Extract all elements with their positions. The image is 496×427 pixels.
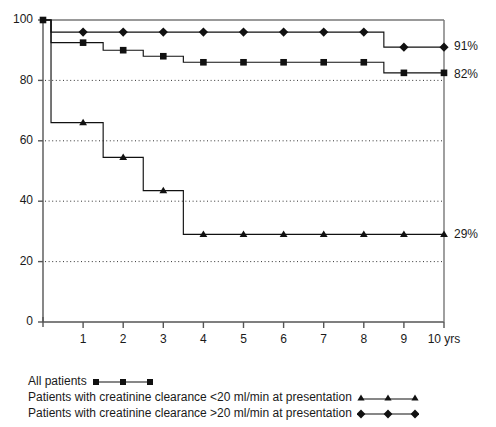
x-tick-label-9: 9 [401, 332, 408, 346]
data-point-square-1 [80, 39, 87, 46]
legend-label-all-patients: All patients [28, 374, 87, 389]
legend-item-clearance-under-20: Patients with creatinine clearance <20 m… [28, 390, 478, 405]
series-triangle [43, 20, 448, 237]
data-point-square-6 [280, 59, 287, 66]
x-tick-label-10: 10 yrs [428, 332, 461, 346]
x-tick-label-8: 8 [360, 332, 367, 346]
x-tick-label-3: 3 [160, 332, 167, 346]
endpoint-label-triangle: 29% [454, 227, 478, 241]
data-point-square-7 [320, 59, 327, 66]
data-point-triangle-5 [280, 230, 288, 237]
data-point-diamond-4 [239, 27, 248, 36]
data-point-diamond-7 [359, 27, 368, 36]
data-point-square-8 [361, 59, 368, 66]
data-point-triangle-0 [79, 119, 87, 126]
series-line-triangle [43, 20, 444, 234]
data-point-triangle-7 [360, 230, 368, 237]
data-point-diamond-0 [79, 27, 88, 36]
axes-group [38, 20, 444, 328]
data-point-diamond-5 [279, 27, 288, 36]
data-point-square-2 [120, 47, 127, 54]
chart-canvas: 02040608010012345678910 yrs 82%29%91% [0, 0, 496, 427]
data-point-triangle-3 [200, 230, 208, 237]
x-tick-label-5: 5 [240, 332, 247, 346]
legend-key-triangle-icon [357, 391, 419, 405]
data-point-diamond-3 [199, 27, 208, 36]
data-point-diamond-1 [119, 27, 128, 36]
data-point-square-9 [401, 70, 408, 77]
legend-key-square-icon [92, 375, 154, 389]
data-point-diamond-2 [159, 27, 168, 36]
chart-legend: All patients Patients with creatinine cl… [28, 374, 478, 420]
y-tick-label-20: 20 [20, 254, 34, 268]
y-tick-label-0: 0 [26, 314, 33, 328]
data-point-triangle-9 [440, 230, 448, 237]
x-tick-label-2: 2 [120, 332, 127, 346]
survival-chart-figure: 02040608010012345678910 yrs 82%29%91% Al… [0, 0, 496, 427]
data-point-triangle-6 [320, 230, 328, 237]
data-point-diamond-8 [399, 43, 408, 52]
legend-key-diamond-icon [357, 407, 419, 421]
x-tick-label-6: 6 [280, 332, 287, 346]
x-tick-label-4: 4 [200, 332, 207, 346]
legend-label-clearance-over-20: Patients with creatinine clearance >20 m… [28, 406, 352, 421]
data-series-group [40, 17, 449, 237]
data-point-triangle-1 [119, 153, 127, 160]
legend-item-clearance-over-20: Patients with creatinine clearance >20 m… [28, 406, 478, 421]
x-tick-label-1: 1 [80, 332, 87, 346]
data-point-triangle-2 [159, 187, 167, 194]
data-point-square-4 [200, 59, 207, 66]
endpoint-label-square: 82% [454, 67, 478, 81]
series-diamond [43, 20, 449, 52]
endpoint-label-diamond: 91% [454, 39, 478, 53]
data-point-diamond-9 [439, 43, 448, 52]
y-tick-label-80: 80 [20, 73, 34, 87]
data-point-triangle-8 [400, 230, 408, 237]
legend-label-clearance-under-20: Patients with creatinine clearance <20 m… [28, 390, 352, 405]
y-tick-label-40: 40 [20, 193, 34, 207]
legend-item-all-patients: All patients [28, 374, 478, 389]
x-tick-label-7: 7 [320, 332, 327, 346]
endpoint-labels-group: 82%29%91% [454, 39, 478, 240]
y-tick-label-100: 100 [13, 12, 33, 26]
data-point-diamond-6 [319, 27, 328, 36]
data-point-square-10 [441, 70, 448, 77]
data-point-triangle-4 [240, 230, 248, 237]
y-tick-label-60: 60 [20, 133, 34, 147]
series-square [40, 17, 448, 76]
data-point-square-3 [160, 53, 167, 60]
data-point-square-5 [240, 59, 247, 66]
